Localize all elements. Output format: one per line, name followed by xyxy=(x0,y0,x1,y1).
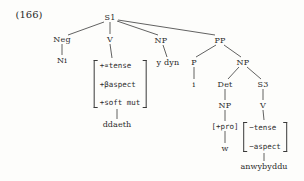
feature-row: −aspect xyxy=(249,142,281,151)
feature-rows: −tense−aspect xyxy=(247,122,283,152)
tree-node-ni: Ni xyxy=(57,56,67,65)
tree-node-np-det: NP xyxy=(219,101,232,110)
tree-node-s3: S3 xyxy=(258,80,269,89)
edge-np-det xyxy=(228,67,239,79)
matrix-embedded-verb: −tense−aspect xyxy=(243,122,287,152)
feature-row: +βaspect xyxy=(100,80,141,89)
tree-node-np-subj: NP xyxy=(155,36,168,45)
bracket-right-icon xyxy=(283,122,287,152)
feature-row: +∝tense xyxy=(100,61,141,70)
tree-node-p: P xyxy=(191,58,197,67)
tree-node-pp: PP xyxy=(214,36,225,45)
tree-node-v-matrix: V xyxy=(107,35,113,44)
tree-node-neg: Neg xyxy=(53,35,70,44)
edge-v-matrix xyxy=(110,44,112,58)
tree-node-y-dyn: y dyn xyxy=(157,58,180,67)
edge-s1-pp xyxy=(118,20,215,35)
terminal-word-ddaeth: ddaeth xyxy=(103,120,132,129)
edge-pp-np xyxy=(224,45,241,57)
matrix-main-verb: +∝tense+βaspect+soft mut xyxy=(94,60,147,108)
tree-node-v-embedded: V xyxy=(260,101,266,110)
feature-row: +soft mut xyxy=(100,98,141,107)
edge-np-ydyn xyxy=(163,45,167,57)
edge-pp-p xyxy=(196,45,216,57)
terminal-word-anwybyddu: anwybyddu xyxy=(240,162,287,171)
tree-node-i: i xyxy=(193,80,196,89)
feature-rows: +∝tense+βaspect+soft mut xyxy=(98,60,143,108)
edge-np-s3 xyxy=(247,67,261,79)
syntax-tree-figure: (166) S1NegNiVNPy dynPPPiNPDetNPS3V+∝ten… xyxy=(0,0,304,181)
pro-feature: [+pro] xyxy=(211,122,238,131)
tree-node-s1: S1 xyxy=(105,13,116,22)
leaf-w: w xyxy=(222,144,229,153)
tree-node-det: Det xyxy=(218,80,233,89)
bracket-right-icon xyxy=(142,60,146,108)
edge-s1-neg xyxy=(68,22,104,35)
tree-node-np-pp: NP xyxy=(237,58,250,67)
edge-v-emb xyxy=(263,110,264,120)
tree-branches xyxy=(0,0,304,181)
feature-row: −tense xyxy=(249,123,281,132)
